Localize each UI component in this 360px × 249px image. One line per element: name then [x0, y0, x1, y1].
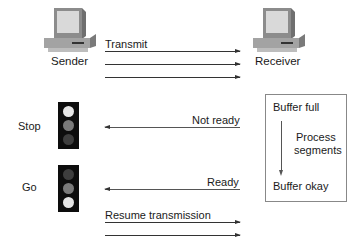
not-ready-arrow — [105, 127, 240, 128]
process-label-line1: Process — [296, 131, 336, 143]
stop-traffic-light — [58, 102, 79, 149]
not-ready-label: Not ready — [192, 114, 240, 126]
go-traffic-light — [58, 165, 79, 212]
transmit-arrow-3 — [105, 77, 240, 78]
sender-computer — [42, 6, 98, 52]
bulb-middle-dim — [63, 183, 74, 194]
ready-label: Ready — [207, 176, 239, 188]
transmit-label: Transmit — [105, 38, 147, 50]
receiver-label: Receiver — [255, 55, 300, 67]
computer-icon — [251, 6, 307, 52]
process-arrow-head — [279, 170, 283, 176]
bulb-bottom-dark — [63, 134, 74, 145]
buffer-okay-label: Buffer okay — [273, 180, 328, 192]
resume-arrow-1 — [105, 222, 240, 223]
sender-label: Sender — [51, 55, 88, 67]
bulb-middle-dim — [63, 120, 74, 131]
bulb-top-lit — [63, 106, 74, 117]
resume-transmission-label: Resume transmission — [105, 209, 211, 221]
buffer-full-label: Buffer full — [273, 101, 319, 113]
go-label: Go — [22, 181, 37, 193]
process-arrow — [281, 121, 282, 173]
transmit-arrow-2 — [105, 64, 240, 65]
receiver-computer — [251, 6, 307, 52]
resume-arrow-2 — [105, 235, 240, 236]
bulb-top-dark — [63, 169, 74, 180]
transmit-arrow-1 — [105, 51, 240, 52]
stop-label: Stop — [18, 120, 41, 132]
process-label-line2: segments — [294, 144, 342, 156]
ready-arrow — [105, 189, 240, 190]
computer-icon — [42, 6, 98, 52]
bulb-bottom-lit — [63, 197, 74, 208]
